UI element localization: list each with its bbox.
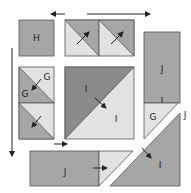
label-j-seam: J bbox=[183, 110, 187, 120]
label-i-dark: I bbox=[85, 84, 88, 94]
label-g-right: G bbox=[150, 112, 157, 122]
label-i-bottom: I bbox=[159, 160, 162, 170]
piece-left-hst-top: G G bbox=[19, 67, 54, 103]
label-g-bottom: G bbox=[22, 89, 29, 99]
piece-top-hst-1 bbox=[65, 20, 99, 56]
label-i-light: I bbox=[115, 114, 118, 124]
piece-top-hst-2 bbox=[99, 20, 134, 56]
piece-right-rect: J bbox=[144, 32, 180, 112]
piece-h-square: H bbox=[19, 20, 54, 56]
label-h: H bbox=[33, 33, 40, 43]
piece-left-hst-bottom bbox=[19, 103, 54, 139]
label-j-bottom: J bbox=[63, 167, 67, 177]
quilt-assembly-diagram: H G G I I J bbox=[0, 0, 191, 193]
piece-center-square: I I bbox=[65, 67, 134, 139]
label-g-top: G bbox=[44, 72, 51, 82]
label-j-right: J bbox=[160, 64, 164, 74]
